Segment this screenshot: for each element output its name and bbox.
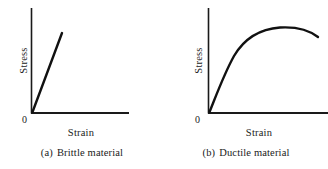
ductile-caption-tag: (b) [202, 147, 215, 158]
ductile-x-axis-label: Strain [226, 127, 292, 138]
panel-ductile-material: Stress Strain 0 (b)Ductile material [164, 0, 328, 169]
brittle-origin-label: 0 [22, 115, 27, 125]
ductile-curve [210, 27, 319, 112]
brittle-x-axis-label: Strain [48, 127, 114, 138]
ductile-plot [164, 0, 328, 125]
ductile-origin-label: 0 [195, 115, 200, 125]
brittle-curve [33, 33, 63, 112]
ductile-y-axis-label: Stress [193, 41, 204, 81]
brittle-y-axis-label: Stress [18, 41, 29, 81]
ductile-caption: (b)Ductile material [164, 147, 328, 158]
ductile-caption-text: Ductile material [219, 147, 289, 158]
stress-strain-figure: Stress Strain 0 (a)Brittle material Stre… [0, 0, 328, 169]
brittle-caption-text: Brittle material [57, 147, 123, 158]
brittle-caption-tag: (a) [41, 147, 53, 158]
brittle-caption: (a)Brittle material [0, 147, 164, 158]
panel-brittle-material: Stress Strain 0 (a)Brittle material [0, 0, 164, 169]
